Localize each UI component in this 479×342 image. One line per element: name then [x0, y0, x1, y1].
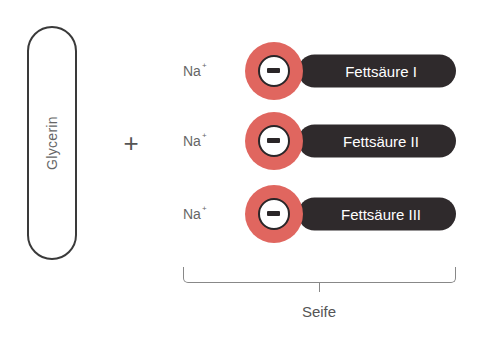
minus-sign-icon	[258, 125, 290, 157]
fatty-acid-chain: Fettsäure I	[298, 55, 456, 88]
cation-symbol: Na	[183, 63, 201, 79]
carboxylate-head-icon	[245, 185, 303, 243]
minus-sign-icon	[258, 55, 290, 87]
bracket-tick	[319, 283, 320, 292]
carboxylate-head-icon	[245, 112, 303, 170]
soap-row-1: Na+ Fettsäure I	[0, 41, 479, 101]
cation-symbol: Na	[183, 206, 201, 222]
minus-sign-icon	[258, 198, 290, 230]
sodium-ion: Na+	[183, 63, 207, 79]
sodium-ion: Na+	[183, 133, 207, 149]
cation-charge: +	[202, 131, 207, 140]
cation-charge: +	[202, 61, 207, 70]
sodium-ion: Na+	[183, 206, 207, 222]
soap-row-2: Na+ Fettsäure II	[0, 111, 479, 171]
fatty-acid-chain: Fettsäure II	[298, 125, 456, 158]
grouping-bracket	[183, 267, 456, 283]
soap-row-3: Na+ Fettsäure III	[0, 184, 479, 244]
cation-symbol: Na	[183, 133, 201, 149]
cation-charge: +	[202, 204, 207, 213]
carboxylate-head-icon	[245, 42, 303, 100]
soap-label: Seife	[302, 303, 336, 320]
fatty-acid-chain: Fettsäure III	[298, 198, 456, 231]
